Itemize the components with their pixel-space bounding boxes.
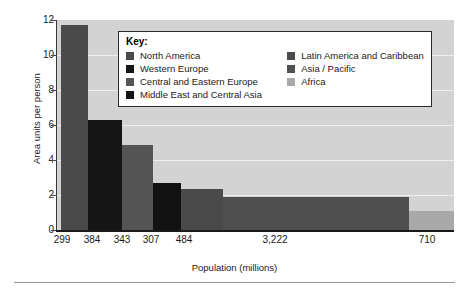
legend-swatch-icon: [126, 65, 134, 73]
legend-swatch-icon: [126, 52, 134, 60]
legend-item-middle-east-and-central-asia: Middle East and Central Asia: [126, 88, 287, 101]
legend-swatch-icon: [287, 78, 295, 86]
legend-item-label: Asia / Pacific: [301, 63, 355, 74]
bar-asia-pacific: [223, 197, 409, 230]
legend-title: Key:: [126, 36, 424, 48]
legend-item-western-europe: Western Europe: [126, 62, 287, 75]
legend-item-asia-pacific: Asia / Pacific: [287, 62, 424, 75]
legend-swatch-icon: [126, 78, 134, 86]
legend-item-label: Latin America and Caribbean: [301, 50, 424, 61]
bar-central-eastern-europe: [122, 145, 153, 230]
legend-item-north-america: North America: [126, 49, 287, 62]
legend-item-latin-america-and-caribbean: Latin America and Caribbean: [287, 49, 424, 62]
x-axis-title: Population (millions): [0, 262, 469, 273]
legend-item-africa: Africa: [287, 75, 424, 88]
y-axis-title: Area units per person: [31, 19, 42, 219]
legend-column-left: North America Western Europe Central and…: [126, 49, 287, 101]
x-tick-label-343: 343: [106, 234, 138, 245]
x-tick-label-307: 307: [135, 234, 167, 245]
legend-swatch-icon: [126, 91, 134, 99]
bar-western-europe: [88, 120, 122, 230]
footer-divider: [14, 282, 455, 283]
bar-chart-figure: Area units per person 12 10 8 6 4 2 0 29…: [0, 0, 469, 289]
legend-item-label: Middle East and Central Asia: [140, 89, 262, 100]
x-tick-label-299: 299: [46, 234, 78, 245]
legend: Key: North America Western Europe Centra…: [118, 31, 432, 107]
legend-item-label: Western Europe: [140, 63, 208, 74]
legend-item-label: North America: [140, 50, 200, 61]
bar-north-america: [61, 25, 88, 230]
bar-africa: [409, 211, 454, 230]
bar-latin-america-caribbean: [181, 189, 223, 230]
x-tick-label-484: 484: [168, 234, 200, 245]
legend-swatch-icon: [287, 65, 295, 73]
legend-item-central-and-eastern-europe: Central and Eastern Europe: [126, 75, 287, 88]
x-tick-label-384: 384: [76, 234, 108, 245]
bar-middle-east-central-asia: [153, 183, 181, 230]
legend-item-label: Africa: [301, 76, 325, 87]
legend-column-right: Latin America and Caribbean Asia / Pacif…: [287, 49, 424, 101]
legend-swatch-icon: [287, 52, 295, 60]
x-tick-label-710: 710: [409, 234, 445, 245]
x-axis-line: [56, 230, 454, 232]
x-tick-label-3222: 3,222: [252, 234, 298, 245]
legend-item-label: Central and Eastern Europe: [140, 76, 258, 87]
